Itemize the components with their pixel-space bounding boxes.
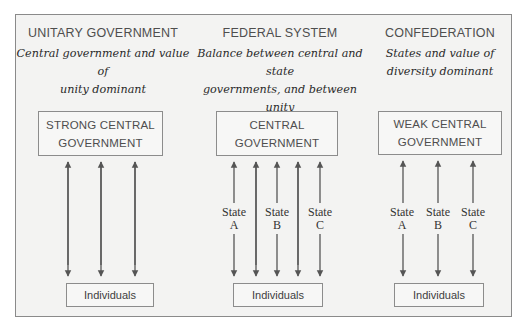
arrows-layer — [0, 0, 529, 332]
